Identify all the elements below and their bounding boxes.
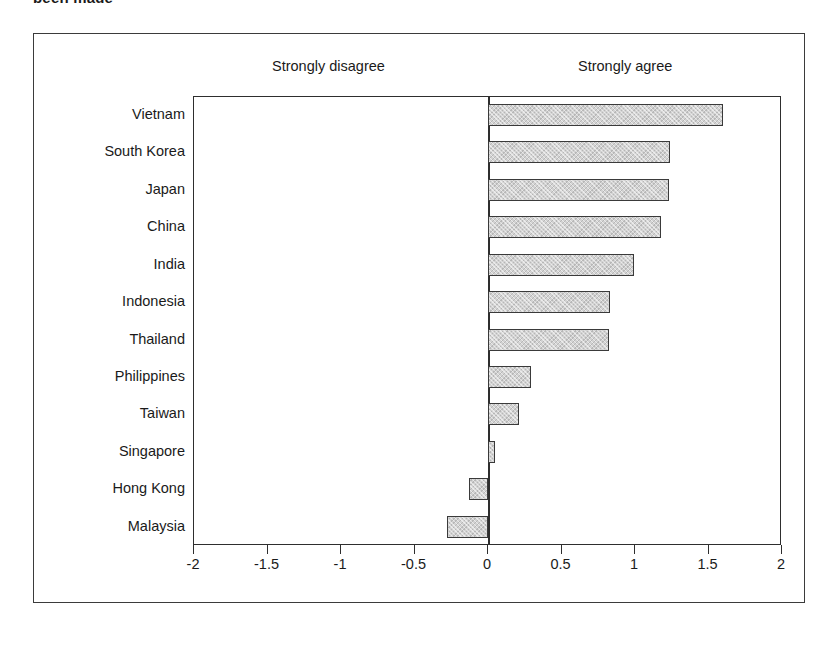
bar-row [194, 284, 780, 321]
x-tick-mark [561, 545, 562, 554]
x-tick-mark [708, 545, 709, 554]
x-tick-mark [781, 545, 782, 554]
caption-fragment-text: been made [33, 0, 113, 8]
bar [488, 179, 669, 201]
pole-label-strongly-disagree: Strongly disagree [272, 58, 385, 74]
x-tick-label: -2 [187, 556, 200, 572]
bar-row [194, 97, 780, 134]
x-tick-mark [267, 545, 268, 554]
x-axis-tick-marks [193, 545, 781, 554]
chart-plot-area [193, 96, 781, 545]
category-label-philippines: Philippines [25, 358, 185, 395]
category-label-thailand: Thailand [25, 321, 185, 358]
bar [488, 329, 609, 351]
bar-row [194, 471, 780, 508]
bar [488, 291, 610, 313]
x-tick-label: -0.5 [401, 556, 426, 572]
category-label-vietnam: Vietnam [25, 96, 185, 133]
category-label-hong-kong: Hong Kong [25, 470, 185, 507]
x-tick-mark [340, 545, 341, 554]
category-label-indonesia: Indonesia [25, 283, 185, 320]
x-tick-mark [487, 545, 488, 554]
bar-row [194, 247, 780, 284]
bar [488, 141, 670, 163]
category-label-singapore: Singapore [25, 433, 185, 470]
pole-label-strongly-agree: Strongly agree [578, 58, 672, 74]
bar [447, 516, 488, 538]
bar [488, 254, 634, 276]
x-tick-mark [193, 545, 194, 554]
x-tick-mark [414, 545, 415, 554]
bar [488, 366, 531, 388]
bar [488, 403, 519, 425]
bar-row [194, 209, 780, 246]
bar [488, 441, 495, 463]
category-label-column: VietnamSouth KoreaJapanChinaIndiaIndones… [23, 96, 185, 545]
x-tick-label: -1.5 [254, 556, 279, 572]
bar [469, 478, 488, 500]
category-label-japan: Japan [25, 171, 185, 208]
category-label-malaysia: Malaysia [25, 508, 185, 545]
category-label-india: India [25, 246, 185, 283]
bar-row [194, 396, 780, 433]
x-tick-label: 2 [777, 556, 785, 572]
category-label-south-korea: South Korea [25, 133, 185, 170]
category-label-china: China [25, 208, 185, 245]
bar-row [194, 322, 780, 359]
x-tick-label: 1 [630, 556, 638, 572]
bar-row [194, 172, 780, 209]
x-tick-label: 0.5 [550, 556, 570, 572]
bar [488, 104, 723, 126]
bar-row [194, 134, 780, 171]
category-label-taiwan: Taiwan [25, 395, 185, 432]
x-tick-label: 0 [483, 556, 491, 572]
bar-row [194, 359, 780, 396]
x-axis-tick-labels: -2-1.5-1-0.500.511.52 [193, 556, 781, 578]
x-tick-mark [634, 545, 635, 554]
bar-row [194, 434, 780, 471]
bar-row [194, 509, 780, 546]
bar [488, 216, 661, 238]
x-tick-label: 1.5 [697, 556, 717, 572]
x-tick-label: -1 [334, 556, 347, 572]
